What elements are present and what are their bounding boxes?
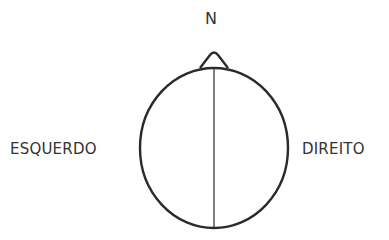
nose-shape	[200, 53, 228, 69]
north-label: N	[205, 9, 217, 28]
left-label: ESQUERDO	[10, 140, 97, 158]
right-label: DIREITO	[302, 140, 365, 158]
head-diagram	[0, 0, 389, 240]
